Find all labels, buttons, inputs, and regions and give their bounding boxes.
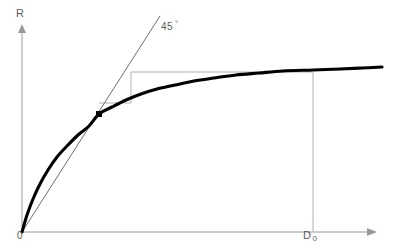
d0-subscript-text: 0 [311, 234, 317, 243]
angle-annotation-label: 45° [161, 20, 178, 32]
response-curve [22, 67, 382, 232]
figure-canvas: R 0 D0 45° [0, 0, 395, 252]
origin-label: 0 [17, 230, 23, 241]
axes-group [18, 24, 377, 236]
angle-value-text: 45 [161, 21, 173, 32]
y-axis-label: R [16, 7, 24, 19]
tangency-point-marker [96, 111, 102, 117]
x-axis-arrowhead [367, 228, 377, 236]
degree-symbol-icon: ° [173, 20, 178, 27]
d0-axis-label: D0 [303, 229, 317, 243]
plot-svg [0, 0, 395, 252]
y-axis-arrowhead [18, 24, 26, 33]
construction-lines-group [99, 72, 313, 232]
